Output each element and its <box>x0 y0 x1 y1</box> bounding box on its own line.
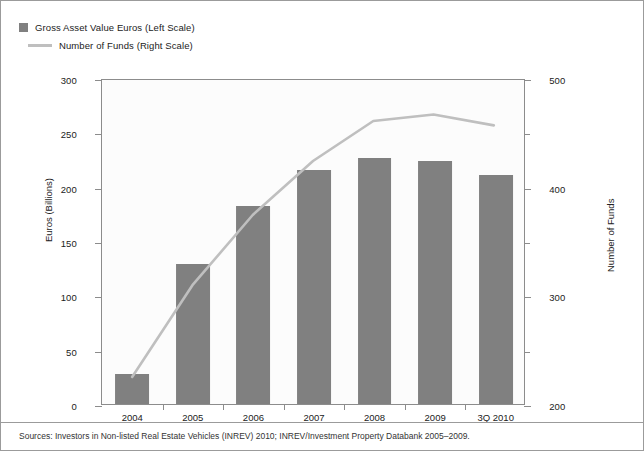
x-axis-tick <box>344 404 345 410</box>
left-axis-tick <box>95 80 102 81</box>
left-axis-tick-label: 0 <box>71 401 76 412</box>
right-axis-tick-label: 300 <box>549 292 565 303</box>
right-axis-tick-label: 200 <box>549 401 565 412</box>
x-axis-tick <box>465 404 466 410</box>
left-axis-title: Euros (Billions) <box>43 178 54 242</box>
x-axis-tick <box>163 404 164 410</box>
chart-legend: Gross Asset Value Euros (Left Scale)Numb… <box>19 20 195 56</box>
right-axis-tick <box>524 352 530 353</box>
legend-item-label: Number of Funds (Right Scale) <box>59 40 193 51</box>
source-note: Sources: Investors in Non-listed Real Es… <box>19 431 470 441</box>
left-axis-tick <box>95 134 102 135</box>
left-axis-tick-label: 250 <box>61 129 77 140</box>
chart-figure: Gross Asset Value Euros (Left Scale)Numb… <box>0 0 644 451</box>
left-axis-tick-label: 100 <box>61 292 77 303</box>
left-axis-tick-label: 300 <box>61 75 77 86</box>
x-axis-tick <box>223 404 224 410</box>
x-axis-tick <box>284 404 285 410</box>
legend-item: Number of Funds (Right Scale) <box>19 38 195 53</box>
right-axis-tick-label: 500 <box>549 75 565 86</box>
left-axis-tick <box>95 189 102 190</box>
right-axis-tick <box>524 297 531 298</box>
left-axis-tick <box>95 297 102 298</box>
legend-bar-swatch-icon <box>19 23 28 32</box>
left-axis-tick-label: 50 <box>66 346 77 357</box>
right-axis-tick <box>524 80 531 81</box>
x-axis-tick <box>405 404 406 410</box>
right-axis-title: Number of Funds <box>605 199 616 272</box>
left-axis-tick <box>95 406 102 407</box>
line-series <box>102 80 524 404</box>
right-axis-tick <box>524 134 530 135</box>
plot-area: 050100150200250300 200300400500 20042005… <box>101 79 525 405</box>
source-divider <box>1 422 643 423</box>
legend-line-swatch-icon <box>28 44 52 47</box>
right-axis-tick <box>524 406 531 407</box>
legend-item: Gross Asset Value Euros (Left Scale) <box>19 20 195 35</box>
right-axis-tick <box>524 243 530 244</box>
legend-item-label: Gross Asset Value Euros (Left Scale) <box>35 22 195 33</box>
left-axis-tick-label: 200 <box>61 183 77 194</box>
left-axis-tick <box>95 243 102 244</box>
left-axis-tick-label: 150 <box>61 238 77 249</box>
left-axis-tick <box>95 352 102 353</box>
right-axis-tick-label: 400 <box>549 183 565 194</box>
right-axis-tick <box>524 189 531 190</box>
